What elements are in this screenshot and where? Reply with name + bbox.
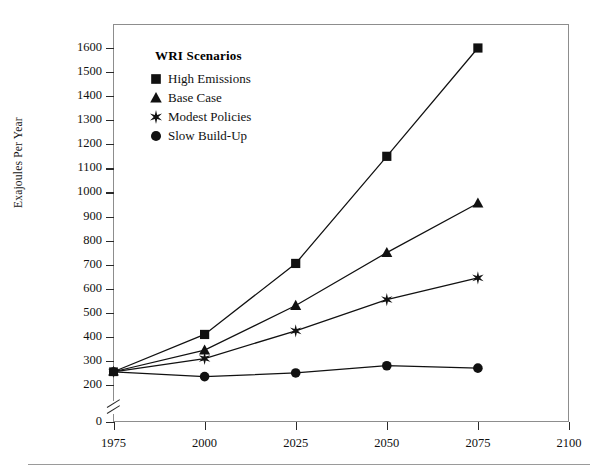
footer-divider — [28, 464, 590, 465]
chart-figure: Exajoules Per Year 160015001400130012001… — [0, 0, 612, 475]
data-point-marker — [472, 198, 483, 208]
star-marker-icon — [146, 107, 166, 126]
data-point-marker — [382, 152, 391, 161]
legend-item-label: Slow Build-Up — [166, 128, 247, 144]
data-point-marker — [290, 300, 301, 310]
data-point-marker — [381, 247, 392, 257]
data-point-marker — [472, 271, 483, 284]
series-modest-policies — [114, 271, 484, 371]
triangle-marker-icon — [146, 88, 166, 107]
data-point-marker — [291, 368, 301, 378]
origin-marker-cluster — [108, 365, 119, 378]
data-point-marker — [382, 361, 392, 371]
legend-item-label: Modest Policies — [166, 109, 251, 125]
circle-marker-icon — [146, 126, 166, 145]
data-point-marker — [109, 367, 118, 376]
legend-item-slow-build-up[interactable]: Slow Build-Up — [146, 126, 346, 145]
legend-item-label: Base Case — [166, 90, 222, 106]
legend-item-base-case[interactable]: Base Case — [146, 88, 346, 107]
data-point-marker — [381, 293, 392, 306]
series-line — [114, 203, 478, 372]
series-base-case — [114, 198, 484, 372]
legend-item-high-emissions[interactable]: High Emissions — [146, 69, 346, 88]
data-point-marker — [200, 330, 209, 339]
legend-item-label: High Emissions — [166, 71, 251, 87]
data-point-marker — [291, 259, 300, 268]
data-point-marker — [290, 324, 301, 337]
data-point-marker — [473, 363, 483, 373]
legend-items: High EmissionsBase CaseModest PoliciesSl… — [146, 69, 346, 145]
data-point-marker — [473, 43, 482, 52]
legend-title: WRI Scenarios — [155, 48, 346, 64]
square-marker-icon — [146, 69, 166, 88]
data-point-marker — [200, 372, 210, 382]
legend-item-modest-policies[interactable]: Modest Policies — [146, 107, 346, 126]
legend: WRI Scenarios High EmissionsBase CaseMod… — [146, 48, 346, 145]
